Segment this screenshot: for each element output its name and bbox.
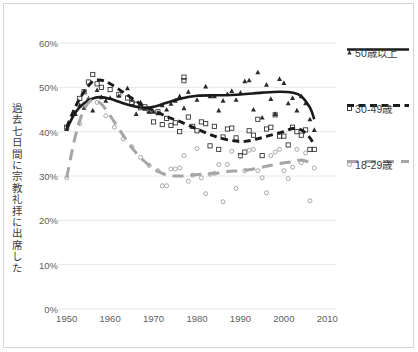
legend-item-label: 18-29歳 [355, 157, 392, 172]
legend-line-swatch [346, 150, 410, 155]
legend-item[interactable]: 18-29歳 [344, 144, 416, 200]
series-points [65, 98, 317, 204]
legend-item[interactable]: 30-49歳 [344, 88, 416, 144]
trend-line [67, 100, 315, 178]
trend-line [67, 92, 315, 129]
chart-container: 過去七日間に宗教礼拝に出席した 0%10%20%30%40%50%60% 195… [0, 0, 418, 352]
triangle-marker-icon [344, 48, 355, 58]
chart-legend: 50歳以上30-49歳18-29歳 [344, 32, 416, 200]
legend-line-swatch [346, 38, 410, 43]
legend-line-swatch [346, 94, 410, 99]
legend-item-label: 30-49歳 [355, 101, 392, 116]
series-points [65, 72, 317, 157]
trend-lines [67, 80, 315, 178]
data-point-markers [64, 70, 317, 204]
legend-item[interactable]: 50歳以上 [344, 32, 416, 88]
legend-item-label: 50歳以上 [355, 45, 397, 60]
square-marker-icon [344, 104, 355, 114]
circle-marker-icon [344, 160, 355, 170]
